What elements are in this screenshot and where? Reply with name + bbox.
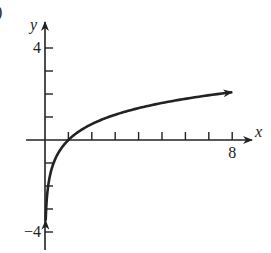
y-axis-label: y xyxy=(28,16,38,34)
chart-plot: 84−4xy xyxy=(0,0,271,253)
axis-labels: 84−4xy xyxy=(24,16,262,240)
x-axis-label: x xyxy=(254,123,262,140)
y-tick-label: 4 xyxy=(33,39,41,56)
y-tick-label: −4 xyxy=(24,223,41,240)
x-tick-label: 8 xyxy=(228,144,236,161)
function-curve xyxy=(46,92,233,220)
